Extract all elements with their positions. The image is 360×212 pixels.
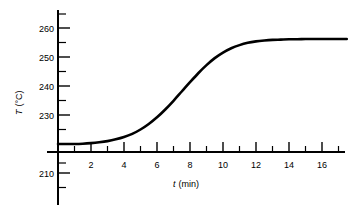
- y-tick-label-240: 240: [39, 82, 54, 92]
- x-tick-label-12: 12: [251, 160, 261, 170]
- chart-canvas: 260 250 240 230 210 T(°C): [0, 0, 360, 212]
- y-axis-title-units: (°C): [14, 90, 24, 106]
- x-tick-label-8: 8: [187, 160, 192, 170]
- x-axis-title-symbol: t: [173, 179, 176, 189]
- temperature-vs-time-figure: 260 250 240 230 210 T(°C): [0, 0, 360, 212]
- y-axis-title: T(°C): [14, 90, 24, 115]
- x-tick-label-16: 16: [317, 160, 327, 170]
- x-axis-tick-labels: 2 4 6 8 10 12 14 16: [88, 160, 327, 170]
- x-tick-label-6: 6: [154, 160, 159, 170]
- x-tick-label-14: 14: [284, 160, 294, 170]
- y-tick-label-210: 210: [39, 169, 54, 179]
- y-tick-label-260: 260: [39, 24, 54, 34]
- x-tick-label-4: 4: [121, 160, 126, 170]
- x-tick-label-10: 10: [218, 160, 228, 170]
- temperature-curve: [58, 39, 347, 144]
- x-tick-label-2: 2: [88, 160, 93, 170]
- x-axis-title-units: (min): [179, 179, 200, 189]
- y-axis-tick-labels: 260 250 240 230 210: [39, 24, 54, 179]
- y-tick-label-250: 250: [39, 53, 54, 63]
- y-axis-title-symbol: T: [14, 108, 24, 115]
- y-tick-label-230: 230: [39, 111, 54, 121]
- y-axis-minor-ticks: [58, 14, 66, 188]
- x-axis-title: t(min): [173, 179, 199, 189]
